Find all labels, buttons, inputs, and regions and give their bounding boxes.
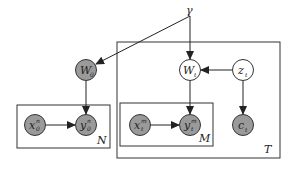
node-ytm-sup: m — [191, 117, 197, 124]
node-W0-sub: 0 — [90, 71, 94, 78]
plate-N-label: N — [96, 134, 107, 147]
node-xtm-sup: m — [141, 117, 147, 124]
node-ytm: y m t — [180, 115, 201, 136]
node-zt: z t — [233, 60, 254, 81]
node-ct-base: c — [238, 119, 244, 132]
node-y0n-sup: n — [87, 117, 91, 124]
node-Wt: W t — [180, 60, 201, 81]
node-y0n-sub: 0 — [87, 125, 91, 132]
edge-gamma-W0 — [96, 16, 190, 64]
node-xtm: x m t — [130, 115, 151, 136]
plate-M-label: M — [198, 132, 211, 145]
gamma-label: γ — [186, 4, 193, 17]
node-ytm-base: y — [183, 119, 191, 132]
node-ct: c t — [233, 115, 254, 136]
node-xtm-base: x — [134, 119, 141, 132]
node-zt-base: z — [237, 64, 244, 77]
node-W0: W 0 — [76, 60, 97, 81]
node-x0n-sub: 0 — [36, 125, 40, 132]
node-y0n: y n 0 — [76, 115, 97, 136]
plate-T-label: T — [264, 143, 273, 156]
node-y0n-base: y — [79, 119, 87, 132]
node-x0n: x n 0 — [25, 115, 46, 136]
graphical-model-diagram: N T M γ W 0 x n 0 y n 0 W t z t — [0, 0, 293, 169]
node-x0n-sup: n — [36, 117, 40, 124]
node-x0n-base: x — [29, 119, 36, 132]
